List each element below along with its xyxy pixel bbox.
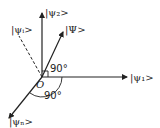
- psi-i-dashed-vector: [19, 36, 42, 77]
- psi2-label: |ψ₂>: [45, 7, 69, 19]
- psi-n-label: |ψₙ>: [9, 116, 33, 128]
- psi1-label: |ψ₁>: [130, 72, 154, 84]
- psi-state-label: |Ψ>: [65, 24, 86, 36]
- psi-i-label: |ψᵢ>: [11, 24, 33, 36]
- right-angle-label: 90°: [50, 63, 68, 74]
- origin-label: O: [36, 79, 44, 90]
- vector-space-diagram: |ψ₂> |ψᵢ> |Ψ> |ψ₁> |ψₙ> 90° 90° O: [0, 0, 160, 128]
- arc-angle-label: 90°: [44, 90, 62, 101]
